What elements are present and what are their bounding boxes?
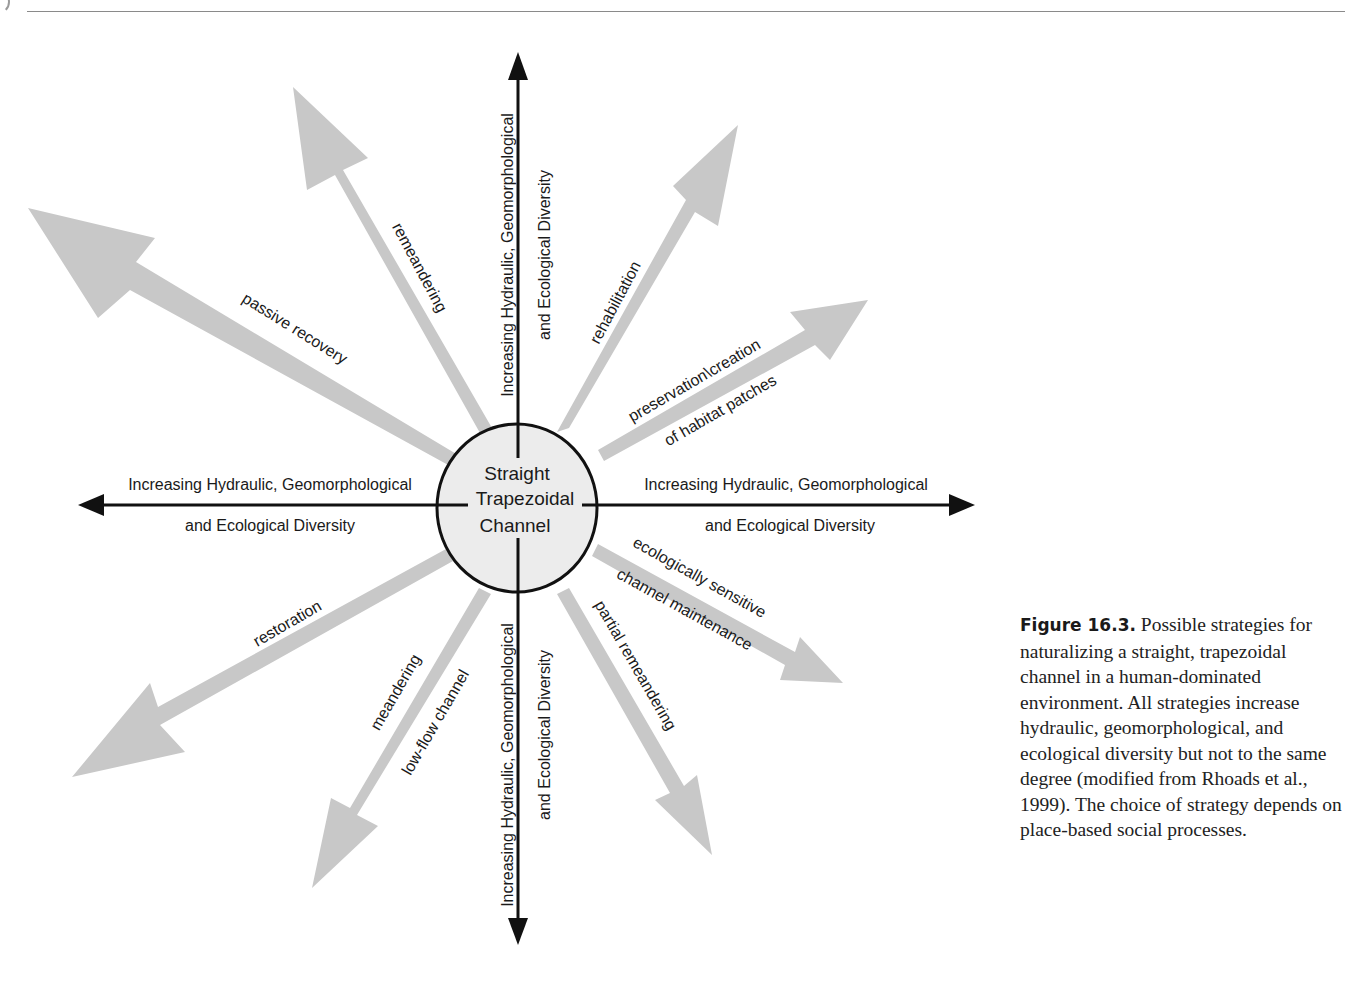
- arrowhead-up: [508, 52, 528, 80]
- axis-right-label-2: and Ecological Diversity: [705, 517, 875, 534]
- caption-text: Possible strategies for naturalizing a s…: [1020, 614, 1342, 840]
- arrowhead-down: [508, 918, 528, 945]
- figure-caption: Figure 16.3. Possible strategies for nat…: [1020, 612, 1345, 843]
- arrowhead-left: [78, 494, 104, 516]
- arrowhead-right: [949, 494, 975, 516]
- axis-left-label-1: Increasing Hydraulic, Geomorphological: [128, 476, 412, 493]
- figure-label: Figure 16.3.: [1020, 615, 1136, 635]
- arrow-meandering-low-flow: [312, 588, 491, 888]
- axis-top-label-1: Increasing Hydraulic, Geomorphological: [499, 113, 516, 397]
- axis-left-label-2: and Ecological Diversity: [185, 517, 355, 534]
- axis-bottom-label-2: and Ecological Diversity: [536, 650, 553, 820]
- center-label-line3: Channel: [480, 515, 551, 536]
- arrow-partial-remeandering: [557, 588, 712, 855]
- arrow-passive-recovery: [28, 208, 458, 466]
- axis-right-label-1: Increasing Hydraulic, Geomorphological: [644, 476, 928, 493]
- label-meandering: meandering: [367, 651, 424, 733]
- arrow-preservation: [598, 300, 868, 461]
- axis-bottom-label-1: Increasing Hydraulic, Geomorphological: [499, 623, 516, 907]
- strategy-diagram: Straight Trapezoidal Channel Increasing …: [0, 0, 1010, 990]
- axis-top-label-2: and Ecological Diversity: [536, 170, 553, 340]
- center-label-line2: Trapezoidal: [476, 488, 575, 509]
- center-label-line1: Straight: [484, 463, 550, 484]
